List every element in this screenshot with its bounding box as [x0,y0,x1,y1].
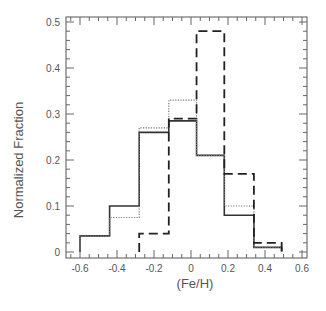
y-tick-label: 0.4 [46,63,60,74]
y-tick-label: 0.3 [46,109,60,120]
x-tick-label: 0.4 [258,263,272,274]
y-tick-label: 0.2 [46,155,60,166]
histogram-solid [80,121,282,252]
x-axis-label: (Fe/H) [150,276,240,291]
y-axis-label-text: Normalized Fraction [11,102,26,218]
y-tick-label: 0 [54,247,60,258]
x-tick-label: -0.4 [108,263,126,274]
histogram-dashed [139,31,281,252]
y-tick-label: 0.1 [46,201,60,212]
x-tick-label: 0.2 [221,263,235,274]
y-axis-label: Normalized Fraction [0,80,40,240]
plot-frame [66,17,307,258]
x-tick-label: -0.2 [145,263,163,274]
plot-area: -0.6-0.4-0.200.20.40.600.10.20.30.40.5 [0,0,326,311]
histogram-chart: -0.6-0.4-0.200.20.40.600.10.20.30.40.5 N… [0,0,326,311]
x-tick-label: -0.6 [71,263,89,274]
y-tick-label: 0.5 [46,17,60,28]
x-tick-label: 0 [188,263,194,274]
x-tick-label: 0.6 [295,263,309,274]
